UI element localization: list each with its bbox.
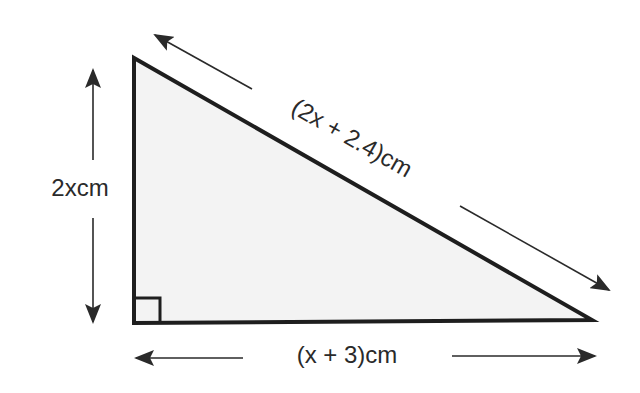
right-triangle-diagram: 2xcm (x + 3)cm (2x + 2.4)cm: [0, 0, 640, 393]
base-label: (x + 3)cm: [297, 341, 398, 368]
vertical-side-label: 2xcm: [51, 174, 108, 201]
triangle-shape: [134, 58, 592, 323]
